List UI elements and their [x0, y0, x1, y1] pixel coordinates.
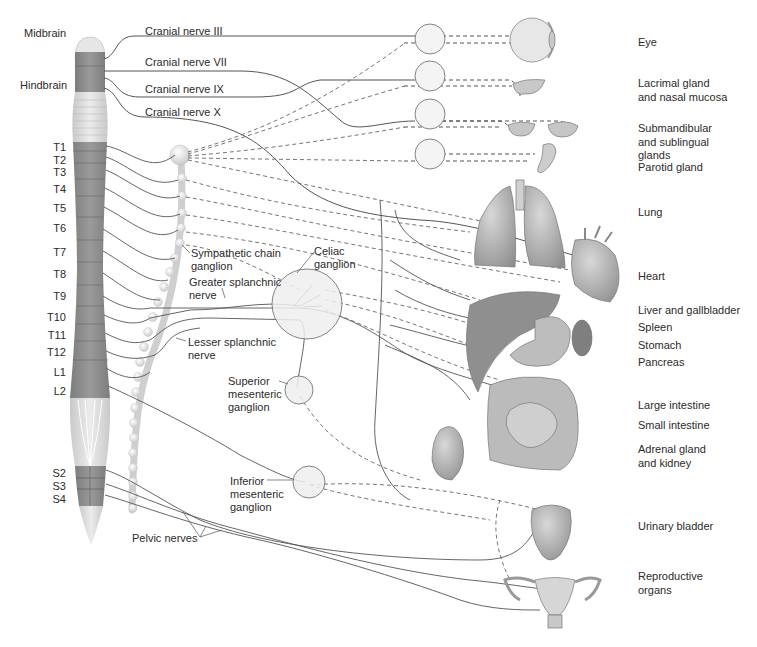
organ-label-parotid: Parotid gland: [638, 161, 703, 175]
organ-label-reproductive: Reproductive organs: [638, 570, 703, 597]
autonomic-nervous-system-diagram: Midbrain Hindbrain Cranial nerve III Cra…: [0, 0, 757, 647]
organ-label-lacrimal: Lacrimal gland and nasal mucosa: [638, 77, 727, 104]
organ-label-small-intestine: Small intestine: [638, 419, 710, 433]
organ-label-large-intestine: Large intestine: [638, 399, 710, 413]
organ-label-pancreas: Pancreas: [638, 356, 684, 370]
organ-label-heart: Heart: [638, 270, 665, 284]
organ-label-eye: Eye: [638, 36, 657, 50]
organ-label-lung: Lung: [638, 206, 662, 220]
organ-label-stomach: Stomach: [638, 339, 681, 353]
organ-label-submandibular: Submandibular and sublingual glands: [638, 122, 712, 163]
organ-label-spleen: Spleen: [638, 321, 672, 335]
organ-label-urinary-bladder: Urinary bladder: [638, 520, 713, 534]
organ-label-adrenal-kidney: Adrenal gland and kidney: [638, 443, 706, 470]
organ-label-liver-gallbladder: Liver and gallbladder: [638, 304, 740, 318]
